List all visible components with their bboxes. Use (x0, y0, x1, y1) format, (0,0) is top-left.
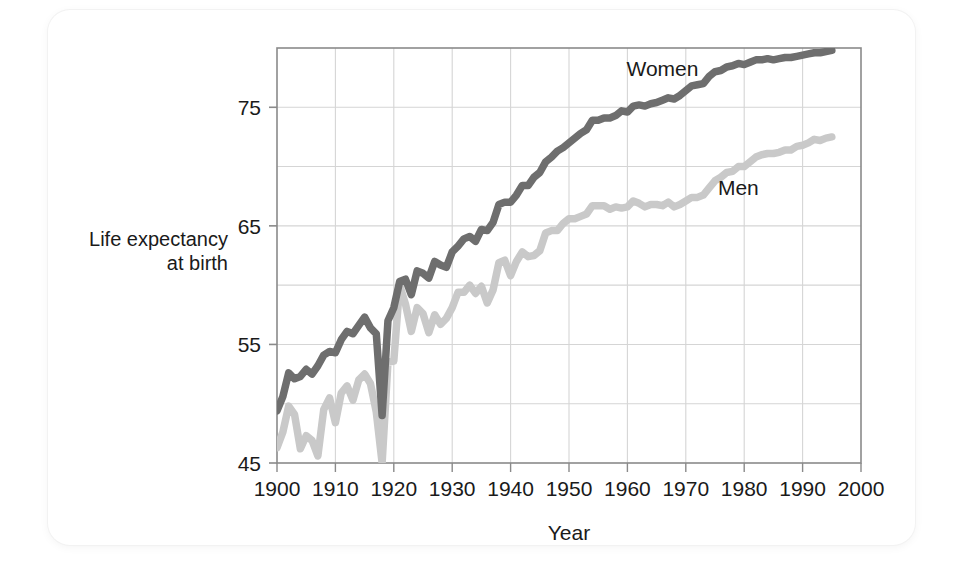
x-tick-label: 1960 (604, 477, 651, 500)
life-expectancy-chart: 4555657519001910192019301940195019601970… (48, 10, 915, 545)
page-root: 4555657519001910192019301940195019601970… (0, 0, 959, 567)
x-tick-label: 1950 (546, 477, 593, 500)
x-tick-label: 1910 (312, 477, 359, 500)
y-axis-title-line1: Life expectancy (89, 228, 228, 250)
series-label-women: Women (626, 57, 698, 80)
x-tick-label: 1990 (779, 477, 826, 500)
chart-svg: 4555657519001910192019301940195019601970… (48, 10, 915, 545)
series-label-men: Men (718, 176, 759, 199)
x-axis-title: Year (548, 521, 590, 544)
y-axis-title-line2: at birth (167, 252, 228, 274)
y-tick-label: 55 (238, 333, 261, 356)
x-tick-label: 1970 (662, 477, 709, 500)
x-tick-label: 1980 (721, 477, 768, 500)
y-tick-label: 45 (238, 452, 261, 475)
x-tick-label: 1930 (429, 477, 476, 500)
x-tick-label: 1920 (370, 477, 417, 500)
x-tick-label: 1940 (487, 477, 534, 500)
chart-card: 4555657519001910192019301940195019601970… (48, 10, 915, 545)
y-tick-label: 65 (238, 215, 261, 238)
grid-lines (277, 48, 861, 463)
x-tick-label: 2000 (838, 477, 885, 500)
x-tick-label: 1900 (254, 477, 301, 500)
y-tick-label: 75 (238, 96, 261, 119)
